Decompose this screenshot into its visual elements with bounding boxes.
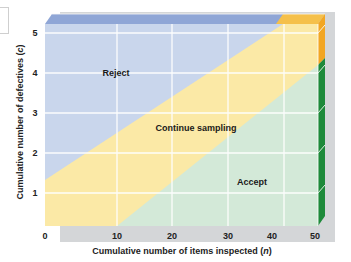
x-tick: 20 bbox=[167, 231, 177, 241]
x-tick: 10 bbox=[112, 231, 122, 241]
y-tick: 4 bbox=[32, 68, 37, 78]
x-tick: 50 bbox=[310, 231, 320, 241]
accept-label: Accept bbox=[237, 177, 267, 187]
y-axis-title: Cumulative number of defectives (c) bbox=[15, 44, 25, 199]
y-tick: 5 bbox=[32, 28, 37, 38]
reject-label: Reject bbox=[102, 68, 129, 78]
top-face-continue bbox=[276, 14, 325, 24]
x-tick: 30 bbox=[223, 231, 233, 241]
top-face-reject bbox=[45, 14, 290, 24]
y-axis-ticks: 5 4 3 2 1 bbox=[32, 28, 37, 198]
sequential-sampling-chart: 5 4 3 2 1 0 10 20 30 40 50 Reject Contin… bbox=[0, 0, 351, 262]
x-tick: 40 bbox=[267, 231, 277, 241]
y-tick: 3 bbox=[32, 108, 37, 118]
side-face-accept bbox=[318, 58, 325, 226]
y-tick: 2 bbox=[32, 148, 37, 158]
continue-sampling-label: Continue sampling bbox=[156, 123, 237, 133]
x-tick: 0 bbox=[42, 231, 47, 241]
x-axis-title: Cumulative number of items inspected (n) bbox=[92, 246, 272, 256]
y-tick: 1 bbox=[32, 188, 37, 198]
